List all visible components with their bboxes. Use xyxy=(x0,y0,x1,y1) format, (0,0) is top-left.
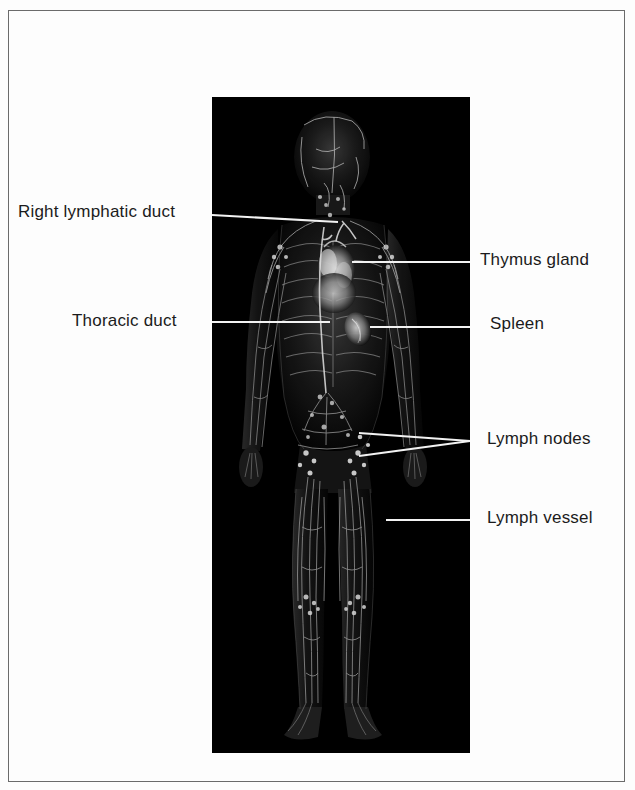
lymphatic-system-illustration xyxy=(212,97,470,753)
label-lymph-nodes: Lymph nodes xyxy=(487,430,591,447)
label-thoracic-duct: Thoracic duct xyxy=(72,312,177,329)
label-lymph-vessel: Lymph vessel xyxy=(487,509,593,526)
anatomy-image-plate xyxy=(212,97,470,753)
label-spleen: Spleen xyxy=(490,315,544,332)
figure-root: Right lymphatic duct Thoracic duct Thymu… xyxy=(0,0,635,790)
label-right-lymphatic-duct: Right lymphatic duct xyxy=(18,203,175,220)
label-thymus-gland: Thymus gland xyxy=(480,251,589,268)
